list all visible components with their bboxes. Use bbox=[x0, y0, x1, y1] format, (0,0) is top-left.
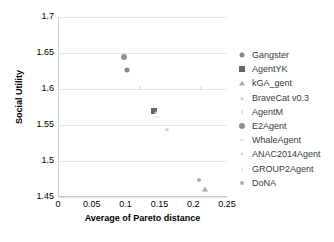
scatter-chart: Social Utility 1.451.51.551.61.651.7 × 0… bbox=[0, 0, 334, 242]
legend-item-label: kGA_gent bbox=[252, 78, 292, 88]
legend-marker-icon bbox=[236, 163, 248, 175]
gridline bbox=[59, 161, 227, 162]
legend-item-label: GROUP2Agent bbox=[252, 164, 314, 174]
legend-item-label: DoNA bbox=[252, 178, 276, 188]
data-point bbox=[155, 117, 159, 118]
data-point bbox=[202, 187, 208, 192]
legend-item-label: AgentM bbox=[252, 107, 283, 117]
legend: GangsterAgentYKkGA_gent×BraveCat v0.3Age… bbox=[236, 48, 334, 190]
data-point bbox=[125, 68, 130, 73]
legend-marker-icon bbox=[236, 120, 248, 132]
x-tick-label: 0.25 bbox=[218, 199, 236, 209]
y-tick-label: 1.65 bbox=[20, 48, 54, 57]
legend-item-label: ANAC2014Agent bbox=[252, 149, 321, 159]
x-tick-label: 0.05 bbox=[83, 199, 101, 209]
legend-marker-icon bbox=[236, 177, 248, 189]
data-point bbox=[197, 178, 201, 182]
legend-item[interactable]: kGA_gent bbox=[236, 76, 334, 90]
data-point bbox=[140, 86, 141, 90]
legend-item-label: E2Agent bbox=[252, 121, 287, 131]
legend-item[interactable]: Gangster bbox=[236, 48, 334, 62]
y-tick-label: 1.7 bbox=[20, 12, 54, 21]
legend-marker-icon bbox=[236, 148, 248, 160]
y-tick-label: 1.6 bbox=[20, 84, 54, 93]
gridline bbox=[59, 125, 227, 126]
legend-marker-icon bbox=[236, 77, 248, 89]
legend-item-label: AgentYK bbox=[252, 64, 288, 74]
x-tick-label: 0.2 bbox=[187, 199, 200, 209]
y-tick-label: 1.45 bbox=[20, 192, 54, 201]
legend-marker-icon bbox=[236, 63, 248, 75]
gridline bbox=[59, 197, 227, 198]
data-point bbox=[200, 86, 201, 90]
y-tick-label: 1.5 bbox=[20, 156, 54, 165]
y-axis-tick-labels: 1.451.51.551.61.651.7 bbox=[18, 0, 54, 242]
data-point: × bbox=[165, 126, 169, 133]
legend-item-label: WhaleAgent bbox=[252, 135, 301, 145]
legend-marker-icon: × bbox=[236, 92, 248, 104]
plot-area: × bbox=[58, 17, 227, 197]
legend-marker-icon bbox=[236, 49, 248, 61]
legend-item[interactable]: ×BraveCat v0.3 bbox=[236, 91, 334, 105]
x-tick-label: 0 bbox=[55, 199, 60, 209]
legend-marker-icon bbox=[236, 106, 248, 118]
data-point bbox=[121, 54, 127, 60]
legend-marker-icon bbox=[236, 134, 248, 146]
x-axis-tick-labels: 00.050.10.150.20.25 bbox=[58, 199, 227, 213]
legend-item[interactable]: AgentYK bbox=[236, 62, 334, 76]
gridline bbox=[59, 53, 227, 54]
legend-item[interactable]: WhaleAgent bbox=[236, 133, 334, 147]
gridline bbox=[59, 89, 227, 90]
x-tick-label: 0.15 bbox=[151, 199, 169, 209]
x-axis-title: Average of Pareto distance bbox=[58, 213, 227, 223]
legend-item[interactable]: AgentM bbox=[236, 105, 334, 119]
legend-item[interactable]: E2Agent bbox=[236, 119, 334, 133]
legend-item[interactable]: GROUP2Agent bbox=[236, 162, 334, 176]
y-tick-label: 1.55 bbox=[20, 120, 54, 129]
legend-item[interactable]: DoNA bbox=[236, 176, 334, 190]
gridline bbox=[59, 17, 227, 18]
x-tick-label: 0.1 bbox=[119, 199, 132, 209]
data-point bbox=[155, 112, 158, 115]
legend-item-label: BraveCat v0.3 bbox=[252, 93, 309, 103]
legend-item-label: Gangster bbox=[252, 50, 289, 60]
legend-item[interactable]: ANAC2014Agent bbox=[236, 147, 334, 161]
